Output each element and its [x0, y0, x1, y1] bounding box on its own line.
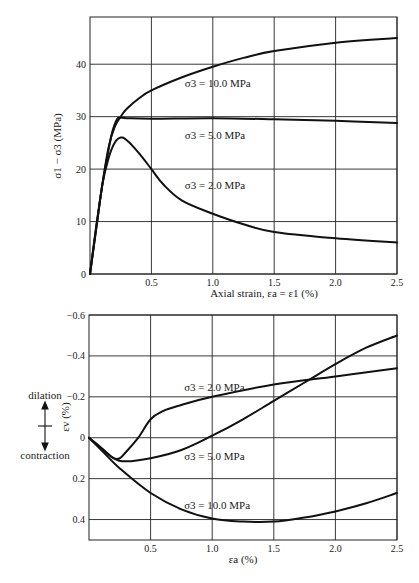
series-label: σ3 = 2.0 MPa — [185, 179, 246, 191]
y-tick-label: −0.2 — [67, 391, 85, 402]
y-tick-label: 0.2 — [73, 473, 86, 484]
top-x-axis-label: Axial strain, εa = ε1 (%) — [210, 287, 318, 300]
y-tick-label: −0.6 — [67, 310, 85, 321]
series-label: σ3 = 2.0 MPa — [184, 381, 245, 393]
x-tick-label: 2.0 — [329, 277, 342, 288]
y-tick-label: 30 — [76, 111, 86, 122]
figure: 0.51.01.52.02.5010203040σ3 = 10.0 MPaσ3 … — [0, 0, 419, 583]
dilation-contraction-arrow-icon — [38, 402, 52, 450]
y-tick-label: 0.4 — [73, 514, 86, 525]
y-tick-label: 0 — [81, 269, 86, 280]
volumetric-strain-chart: 0.51.01.52.02.5−0.6−0.4−0.200.20.4σ3 = 2… — [67, 310, 403, 555]
series-label: σ3 = 10.0 MPa — [185, 77, 251, 89]
y-tick-label: −0.4 — [67, 350, 85, 361]
deviator-stress-chart: 0.51.01.52.02.5010203040σ3 = 10.0 MPaσ3 … — [76, 17, 403, 288]
dilation-label: dilation — [28, 389, 62, 401]
x-tick-label: 2.0 — [329, 543, 342, 554]
top-y-axis-label: σ1 − σ3 (MPa) — [51, 113, 64, 179]
y-tick-label: 20 — [76, 164, 86, 175]
y-tick-label: 0 — [80, 432, 85, 443]
y-tick-label: 10 — [76, 216, 86, 227]
series-curve — [90, 137, 397, 274]
series-label: σ3 = 5.0 MPa — [184, 450, 245, 462]
x-tick-label: 0.5 — [144, 543, 157, 554]
plot-frame — [90, 17, 397, 274]
bottom-y-axis-label: εv (%) — [59, 402, 72, 432]
y-tick-label: 40 — [76, 59, 86, 70]
x-tick-label: 1.5 — [268, 543, 281, 554]
x-tick-label: 2.5 — [391, 543, 404, 554]
series-label: σ3 = 10.0 MPa — [184, 499, 250, 511]
series-label: σ3 = 5.0 MPa — [185, 129, 246, 141]
bottom-x-axis-label: εa (%) — [229, 553, 258, 566]
series-curve — [90, 118, 397, 274]
x-tick-label: 1.0 — [206, 543, 219, 554]
x-tick-label: 0.5 — [145, 277, 158, 288]
x-tick-label: 2.5 — [391, 277, 404, 288]
